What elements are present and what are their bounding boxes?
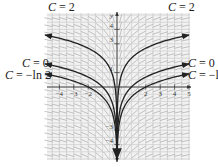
x-tick-label: −2 bbox=[84, 90, 92, 98]
x-tick-label: −3 bbox=[70, 90, 78, 98]
y-tick-label: 3 bbox=[110, 36, 114, 44]
label-c2-left: C = 2 bbox=[48, 1, 75, 13]
label-cneg-ln2-left: C = −ln 2 bbox=[5, 69, 51, 81]
x-tick-label: 4 bbox=[173, 90, 177, 98]
slope-field-chart: −4−3−22345431−3−4y bbox=[0, 0, 218, 167]
y-tick-label: −4 bbox=[106, 137, 114, 145]
x-tick-label: 2 bbox=[144, 90, 148, 98]
x-tick-label: 5 bbox=[187, 90, 191, 98]
x-tick-label: −4 bbox=[56, 90, 64, 98]
x-tick-label: 3 bbox=[158, 90, 162, 98]
y-tick-label: 4 bbox=[110, 22, 114, 30]
label-cneg-ln2-right: C = −ln bbox=[188, 69, 218, 81]
label-c2-right: C = 2 bbox=[168, 1, 195, 13]
y-tick-label: −3 bbox=[106, 123, 114, 131]
